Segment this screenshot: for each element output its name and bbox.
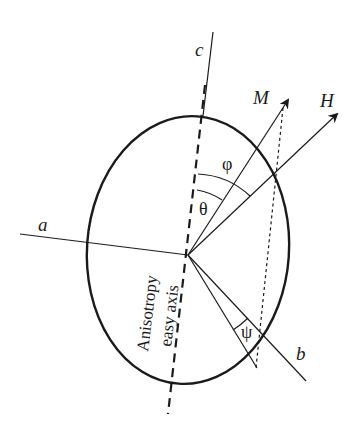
m-vector-arrow bbox=[188, 100, 288, 255]
theta-label: θ bbox=[199, 199, 208, 219]
particle-ellipse bbox=[78, 109, 298, 390]
h-vector-arrow bbox=[188, 114, 337, 255]
b-axis-label: b bbox=[296, 343, 306, 364]
m-projection-dotted-line bbox=[256, 108, 283, 368]
a-axis-line bbox=[20, 234, 188, 255]
psi-label: ψ bbox=[241, 322, 253, 342]
h-vector-label: H bbox=[319, 90, 335, 111]
phi-label: φ bbox=[222, 154, 232, 174]
m-vector-label: M bbox=[252, 87, 270, 108]
c-axis-line bbox=[203, 32, 213, 116]
anisotropy-diagram: c M H φ θ a ψ b Anisotropy easy axis bbox=[0, 0, 357, 435]
easy-axis-label-line2: easy axis bbox=[156, 284, 182, 348]
a-axis-label: a bbox=[38, 214, 48, 235]
c-axis-label: c bbox=[195, 39, 204, 60]
projection-line bbox=[188, 255, 257, 368]
easy-axis-dashed-line bbox=[168, 85, 205, 414]
b-axis-line bbox=[188, 255, 306, 381]
